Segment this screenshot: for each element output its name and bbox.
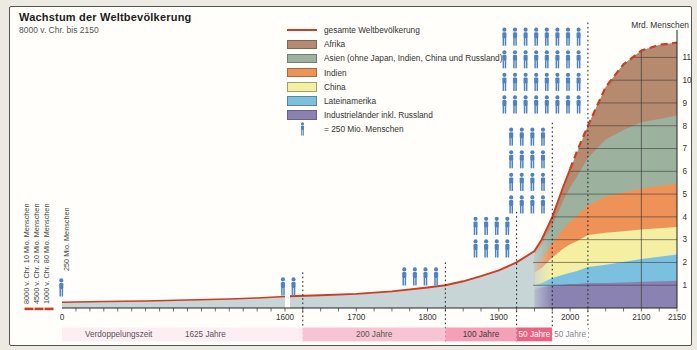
person-icon [502, 95, 506, 113]
person-icon [513, 73, 517, 91]
person-icon [541, 173, 545, 191]
y-tick-label: 3 [683, 235, 688, 244]
person-icon [524, 28, 528, 46]
person-icon [509, 173, 513, 191]
y-tick-label: 11 [683, 53, 692, 62]
person-icon [434, 267, 438, 285]
y-tick-label: 2 [683, 258, 688, 267]
person-icon [423, 267, 427, 285]
person-icon [509, 195, 513, 213]
person-icon [555, 95, 559, 113]
person-icon [524, 73, 528, 91]
axis-ticks [76, 308, 677, 312]
person-scale-label: 250 Mio. Menschen [62, 207, 71, 271]
person-icon [541, 150, 545, 168]
person-group-1925 [473, 217, 509, 258]
person-group-1625 [281, 277, 296, 295]
person-group-0 [59, 278, 63, 296]
person-icon [555, 50, 559, 68]
person-icon [545, 95, 549, 113]
person-icon [566, 50, 570, 68]
person-icon [59, 278, 63, 296]
ancient-population-dash [25, 308, 34, 311]
ancient-population-dash [45, 308, 54, 311]
person-icon [505, 217, 509, 235]
doubling-band-label: 200 Jahre [356, 330, 393, 339]
person-group-1975 [509, 128, 545, 214]
person-icon [520, 150, 524, 168]
person-icon [502, 73, 506, 91]
x-tick-label: 1800 [418, 313, 437, 322]
person-icon [534, 73, 538, 91]
person-icon [520, 173, 524, 191]
y-tick-label: 8 [683, 122, 688, 131]
x-tick-label: 2000 [561, 313, 580, 322]
person-icon [577, 50, 581, 68]
person-icon [520, 128, 524, 146]
y-tick-label: 10 [683, 76, 693, 85]
chart-canvas: 8000 v. Chr. 10 Mio. Menschen4500 v. Chr… [0, 0, 697, 350]
person-icon [577, 95, 581, 113]
person-icon [545, 73, 549, 91]
person-icon [505, 239, 509, 257]
x-tick-label: 1700 [347, 313, 366, 322]
person-icon [577, 73, 581, 91]
person-icon [402, 267, 406, 285]
person-icon [502, 50, 506, 68]
person-icon [541, 195, 545, 213]
person-icon [484, 239, 488, 257]
person-icon [291, 277, 295, 295]
ancient-population-label: 8000 v. Chr. 10 Mio. Menschen [22, 204, 31, 304]
person-icon [530, 150, 534, 168]
person-icon [513, 95, 517, 113]
person-icon [534, 28, 538, 46]
doubling-band-label: 100 Jahre [463, 330, 500, 339]
ancient-population-label: 1000 v. Chr. 80 Mio. Menschen [42, 204, 51, 304]
person-group-1825 [402, 267, 438, 285]
doubling-band-label: 50 Jahre [519, 330, 551, 339]
person-icon [577, 28, 581, 46]
x-tick-label: 2150 [668, 313, 687, 322]
doubling-band-label: 50 Jahre [554, 330, 586, 339]
y-tick-label: 5 [683, 190, 688, 199]
figure: Wachstum der Weltbevölkerung 8000 v. Chr… [0, 0, 697, 350]
y-tick-label: 4 [683, 213, 688, 222]
person-icon [473, 217, 477, 235]
y-tick-label: 6 [683, 167, 688, 176]
person-icon [530, 173, 534, 191]
person-icon [509, 150, 513, 168]
doubling-band-label: 1625 Jahre [185, 330, 226, 339]
y-tick-label: 7 [683, 144, 688, 153]
x-tick-label: 2100 [632, 313, 651, 322]
person-icon [413, 267, 417, 285]
person-icon [530, 128, 534, 146]
ancient-population-label: 4500 v. Chr. 20 Mio. Menschen [32, 204, 41, 304]
person-icon [473, 239, 477, 257]
person-icon [534, 50, 538, 68]
person-icon [545, 28, 549, 46]
person-icon [513, 50, 517, 68]
person-icon [534, 95, 538, 113]
person-icon [555, 28, 559, 46]
person-icon [495, 217, 499, 235]
person-icon [281, 277, 285, 295]
y-tick-label: 1 [683, 281, 688, 290]
person-icon [566, 73, 570, 91]
person-icon [541, 128, 545, 146]
x-tick-label: 1900 [490, 313, 509, 322]
ancient-population-dash [35, 308, 44, 311]
y-tick-label: 9 [683, 99, 688, 108]
y-axis-title: Mrd. Menschen [631, 20, 689, 30]
person-icon [566, 28, 570, 46]
person-icon [484, 217, 488, 235]
person-icon [555, 73, 559, 91]
person-icon [495, 239, 499, 257]
person-icon [530, 195, 534, 213]
x-tick-label: 1600 [276, 313, 295, 322]
person-icon [520, 195, 524, 213]
person-icon [509, 128, 513, 146]
doubling-axis-label: Verdoppelungszeit [85, 330, 153, 339]
person-icon [524, 95, 528, 113]
person-icon [502, 28, 506, 46]
person-icon [524, 50, 528, 68]
